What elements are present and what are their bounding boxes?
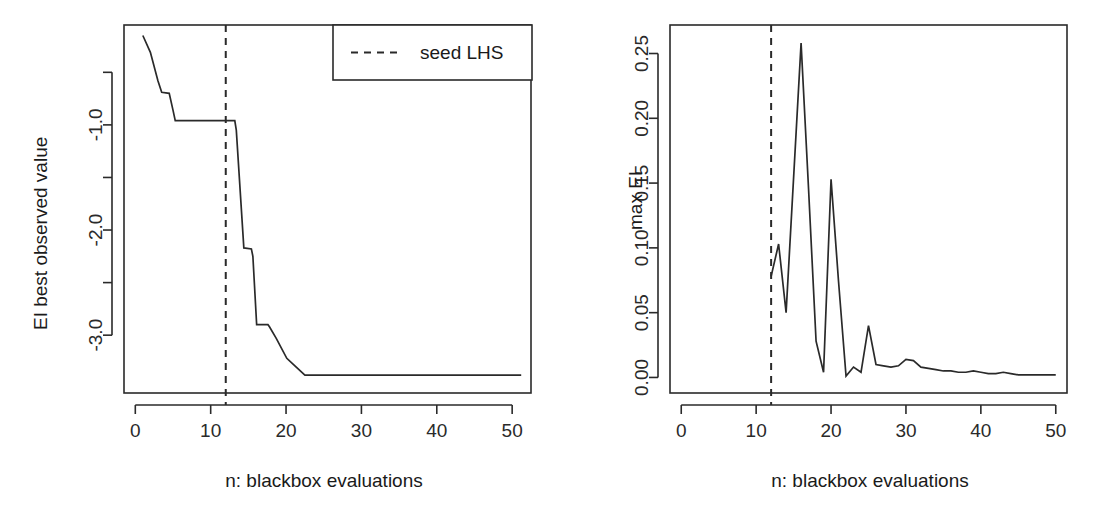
x-tick-label: 10	[746, 420, 767, 441]
left-x-axis-title: n: blackbox evaluations	[124, 470, 524, 492]
x-tick-label: 40	[426, 420, 447, 441]
left-y-axis-title: EI best observed value	[30, 137, 52, 330]
x-tick-label: 40	[970, 420, 991, 441]
right-y-axis-title: max EI	[625, 171, 647, 230]
right-x-axis-title: n: blackbox evaluations	[670, 470, 1070, 492]
x-tick-label: 30	[895, 420, 916, 441]
y-tick-label: 0.05	[632, 294, 653, 331]
x-tick-label: 0	[130, 420, 141, 441]
x-tick-label: 50	[1045, 420, 1066, 441]
y-tick-label: -1.0	[86, 109, 107, 142]
y-tick-label: 0.00	[632, 359, 653, 396]
x-tick-label: 30	[351, 420, 372, 441]
plot-frame	[670, 25, 1067, 393]
right-plot-graphic: 010203040500.000.050.100.150.200.25	[547, 0, 1094, 526]
y-tick-label: 0.25	[632, 35, 653, 72]
x-tick-label: 20	[820, 420, 841, 441]
y-tick-label: 0.20	[632, 100, 653, 137]
x-tick-label: 20	[275, 420, 296, 441]
panel-max-ei: 010203040500.000.050.100.150.200.25 max …	[547, 0, 1094, 526]
x-tick-label: 0	[676, 420, 687, 441]
x-tick-label: 10	[200, 420, 221, 441]
left-plot-graphic: 01020304050-1.0-2.0-3.0	[0, 0, 547, 526]
legend-label-seed-lhs: seed LHS	[420, 42, 503, 64]
panel-ei-best-observed-value: 01020304050-1.0-2.0-3.0 EI best observed…	[0, 0, 547, 526]
figure-canvas: 01020304050-1.0-2.0-3.0 EI best observed…	[0, 0, 1094, 526]
data-line-ei-best-observed-value	[143, 36, 521, 376]
y-tick-label: -2.0	[86, 214, 107, 247]
y-tick-label: 0.10	[632, 229, 653, 266]
data-line-max-ei	[771, 43, 1056, 376]
y-tick-label: -3.0	[86, 319, 107, 352]
x-tick-label: 50	[502, 420, 523, 441]
